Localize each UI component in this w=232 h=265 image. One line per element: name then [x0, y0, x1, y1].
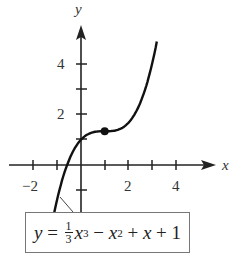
inflection-point-marker — [101, 127, 109, 135]
x-axis-label: x — [221, 157, 229, 173]
formula-constant: 1 — [172, 222, 182, 244]
formula-plus-2: + — [151, 222, 171, 244]
formula-annotation-box: y = 1 3 x3 − x2 + x + 1 — [25, 212, 190, 253]
y-axis-label: y — [73, 1, 82, 17]
formula-fraction: 1 3 — [65, 220, 73, 245]
x-tick-label-neg2: −2 — [22, 178, 38, 194]
formula-minus: − — [89, 222, 109, 244]
formula-equals: = — [42, 222, 62, 244]
y-tick-label-4: 4 — [57, 56, 65, 72]
formula-x-cubed: x — [75, 222, 83, 244]
annotation-leader-line — [60, 197, 73, 212]
formula-lhs: y — [34, 222, 42, 244]
y-tick-label-2: 2 — [57, 106, 65, 122]
fraction-denominator: 3 — [66, 233, 72, 245]
x-tick-label-4: 4 — [172, 178, 180, 194]
formula-plus-1: + — [123, 222, 143, 244]
formula-x-squared: x — [109, 222, 117, 244]
formula-x-linear: x — [143, 222, 151, 244]
x-tick-label-2: 2 — [124, 178, 132, 194]
